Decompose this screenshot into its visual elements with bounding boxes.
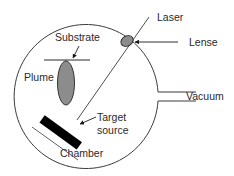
laser-label: Laser xyxy=(157,11,184,23)
pld-diagram: Laser Lense Substrate Plume Target sourc… xyxy=(0,0,234,176)
plume-label: Plume xyxy=(24,71,54,83)
vacuum-label: Vacuum xyxy=(186,90,224,102)
plume xyxy=(58,61,75,105)
target-label-line2: source xyxy=(97,124,129,136)
substrate-arrow xyxy=(73,46,79,58)
chamber-label: Chamber xyxy=(60,147,104,159)
target-source xyxy=(39,115,82,149)
lense-label: Lense xyxy=(189,36,218,48)
lens xyxy=(119,33,135,48)
target-arrow xyxy=(80,117,96,124)
substrate-label: Substrate xyxy=(55,31,100,43)
target-label-line1: Target xyxy=(97,111,126,123)
